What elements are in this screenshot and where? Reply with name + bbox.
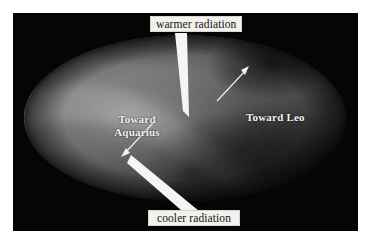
toward-aquarius-line1: Toward	[101, 113, 173, 126]
toward-leo-text: Toward Leo	[246, 111, 305, 123]
cooler-radiation-label: cooler radiation	[148, 210, 240, 226]
sky-map-panel: Toward Leo Toward Aquarius	[13, 13, 358, 231]
figure-cmb-dipole-map: Toward Leo Toward Aquarius warmer radiat…	[0, 0, 370, 242]
warmer-radiation-label: warmer radiation	[150, 16, 242, 32]
toward-aquarius-label: Toward Aquarius	[101, 113, 173, 138]
sky-map-graphic	[13, 13, 358, 231]
toward-aquarius-line2: Aquarius	[101, 126, 173, 139]
toward-leo-label: Toward Leo	[246, 111, 305, 124]
